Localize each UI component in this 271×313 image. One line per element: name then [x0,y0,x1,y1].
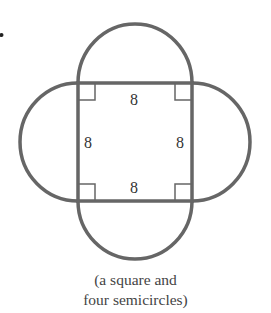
figure-diagram: 8 8 8 8 [0,0,271,313]
caption-line-1: (a square and [0,270,271,290]
right-semicircle [192,83,250,201]
label-left-side: 8 [84,134,92,151]
top-semicircle [78,24,192,83]
right-angle-marker-top-right [175,83,192,100]
left-semicircle [20,83,78,201]
label-bottom-side: 8 [130,179,138,196]
list-marker-dot [0,33,4,37]
caption-line-2: four semicircles) [0,290,271,310]
right-angle-marker-bottom-left [78,184,95,201]
right-angle-marker-bottom-right [175,184,192,201]
right-angle-marker-top-left [78,83,95,100]
label-top-side: 8 [130,91,138,108]
bottom-semicircle [78,201,192,259]
label-right-side: 8 [176,134,184,151]
